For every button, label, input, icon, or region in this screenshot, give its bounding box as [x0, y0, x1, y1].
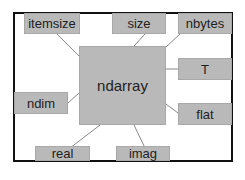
node-ndarray: ndarray: [79, 46, 166, 125]
node-label: flat: [196, 107, 213, 122]
node-nbytes: nbytes: [178, 13, 232, 34]
node-label: ndarray: [97, 77, 148, 94]
node-label: imag: [129, 146, 157, 161]
node-label: size: [127, 16, 150, 31]
node-label: nbytes: [186, 16, 224, 31]
node-real: real: [35, 146, 90, 161]
node-flat: flat: [178, 103, 232, 125]
node-label: ndim: [27, 96, 55, 111]
node-T: T: [178, 58, 232, 80]
node-label: itemsize: [28, 16, 76, 31]
node-size: size: [112, 13, 166, 34]
node-label: real: [52, 146, 74, 161]
node-label: T: [201, 62, 209, 77]
node-itemsize: itemsize: [24, 13, 80, 34]
node-ndim: ndim: [14, 92, 68, 114]
node-imag: imag: [116, 146, 170, 161]
